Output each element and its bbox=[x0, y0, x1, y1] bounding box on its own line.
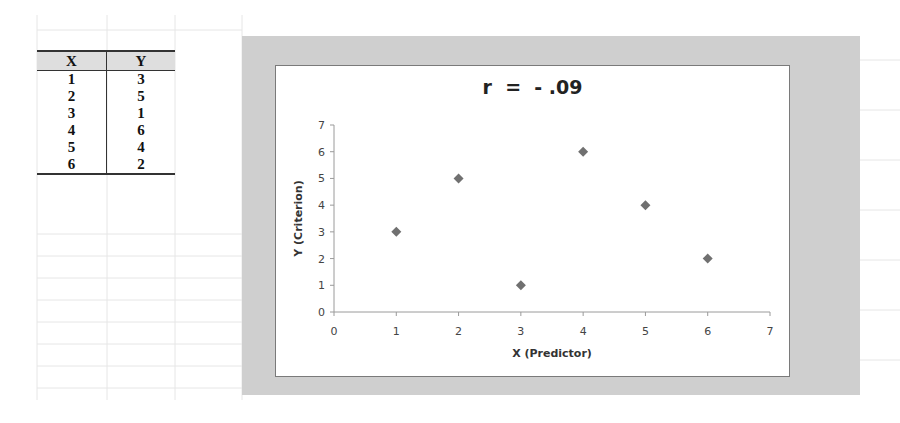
y-tick-label: 4 bbox=[318, 199, 325, 212]
table-row: 3 1 bbox=[37, 105, 175, 122]
data-point-diamond-icon bbox=[391, 227, 401, 237]
table-header-row: X Y bbox=[37, 51, 175, 71]
y-tick-label: 6 bbox=[318, 146, 325, 159]
cell-x[interactable]: 5 bbox=[37, 139, 107, 156]
cell-x[interactable]: 4 bbox=[37, 122, 107, 139]
x-tick-label: 7 bbox=[767, 325, 774, 338]
x-tick-label: 6 bbox=[704, 325, 711, 338]
y-tick-label: 0 bbox=[318, 306, 325, 319]
y-tick-label: 3 bbox=[318, 226, 325, 239]
x-tick-label: 2 bbox=[455, 325, 462, 338]
x-tick-label: 5 bbox=[642, 325, 649, 338]
cell-y[interactable]: 2 bbox=[107, 156, 176, 174]
chart-plot-area[interactable]: r = - .09 0123456701234567X (Predictor)Y… bbox=[275, 65, 790, 377]
table-row: 6 2 bbox=[37, 156, 175, 174]
x-tick-label: 0 bbox=[331, 325, 338, 338]
cell-x[interactable]: 3 bbox=[37, 105, 107, 122]
cell-x[interactable]: 1 bbox=[37, 71, 107, 89]
header-x: X bbox=[37, 51, 107, 71]
x-tick-label: 3 bbox=[517, 325, 524, 338]
table-row: 4 6 bbox=[37, 122, 175, 139]
cell-y[interactable]: 4 bbox=[107, 139, 176, 156]
data-table: X Y 1 3 2 5 3 1 4 6 5 4 6 2 bbox=[37, 50, 175, 175]
table-row: 1 3 bbox=[37, 71, 175, 89]
y-tick-label: 1 bbox=[318, 279, 325, 292]
y-tick-label: 2 bbox=[318, 253, 325, 266]
cell-y[interactable]: 5 bbox=[107, 88, 176, 105]
data-point-diamond-icon bbox=[703, 254, 713, 264]
table-row: 5 4 bbox=[37, 139, 175, 156]
data-point-diamond-icon bbox=[516, 280, 526, 290]
cell-y[interactable]: 6 bbox=[107, 122, 176, 139]
data-point-diamond-icon bbox=[454, 173, 464, 183]
data-point-diamond-icon bbox=[578, 147, 588, 157]
cell-x[interactable]: 2 bbox=[37, 88, 107, 105]
table-row: 2 5 bbox=[37, 88, 175, 105]
x-axis-label: X (Predictor) bbox=[512, 347, 592, 360]
header-y: Y bbox=[107, 51, 176, 71]
x-tick-label: 4 bbox=[580, 325, 587, 338]
data-point-diamond-icon bbox=[640, 200, 650, 210]
cell-y[interactable]: 1 bbox=[107, 105, 176, 122]
y-tick-label: 5 bbox=[318, 172, 325, 185]
y-tick-label: 7 bbox=[318, 119, 325, 132]
x-tick-label: 1 bbox=[393, 325, 400, 338]
y-axis-label: Y (Criterion) bbox=[292, 180, 305, 257]
scatter-plot: 0123456701234567X (Predictor)Y (Criterio… bbox=[276, 66, 791, 378]
cell-x[interactable]: 6 bbox=[37, 156, 107, 174]
cell-y[interactable]: 3 bbox=[107, 71, 176, 89]
